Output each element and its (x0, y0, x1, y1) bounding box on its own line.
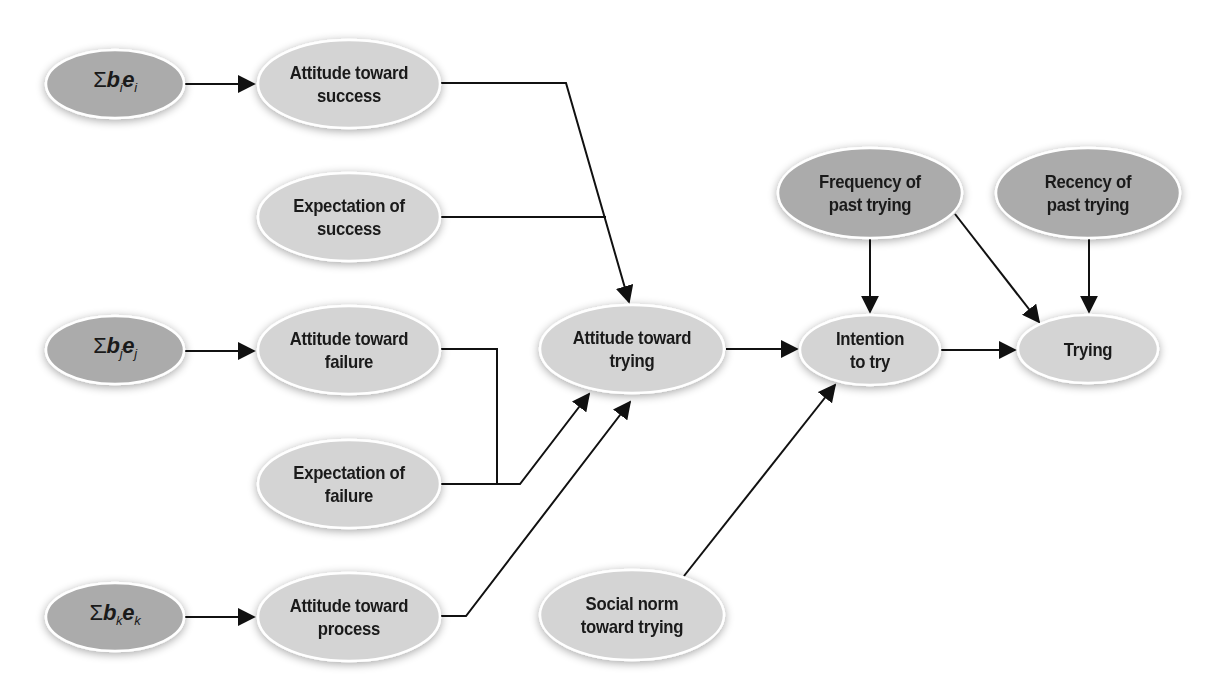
subscript: j (134, 347, 137, 362)
label-line: trying (610, 349, 655, 372)
label-att-failure: Attitude toward failure (269, 326, 429, 374)
label-line: Frequency of (819, 170, 921, 193)
label-att-trying: Attitude toward trying (551, 325, 713, 373)
sigma-symbol: Σ (90, 600, 103, 625)
label-line: failure (325, 484, 373, 507)
sigma-symbol: Σ (93, 333, 106, 358)
var-b: b (103, 600, 116, 625)
label-line: past trying (829, 193, 912, 216)
edge-att-failure-to-att-trying (441, 349, 497, 484)
label-line: Intention (836, 327, 904, 350)
label-exp-success: Expectation of success (269, 193, 429, 241)
label-line: Attitude toward (290, 594, 409, 617)
var-b: b (107, 333, 120, 358)
edge-att-success-to-att-trying (441, 83, 629, 302)
edge-frequency-to-trying (955, 214, 1039, 322)
label-line: Social norm (586, 592, 679, 615)
edge-exp-failure-to-att-trying (441, 394, 589, 484)
label-att-success: Attitude toward success (269, 60, 429, 108)
label-trying: Trying (1026, 337, 1149, 361)
label-line: failure (325, 350, 373, 373)
label-social-norm: Social norm toward trying (551, 591, 713, 639)
label-line: Expectation of (293, 194, 405, 217)
label-line: Attitude toward (573, 326, 692, 349)
label-line: Attitude toward (290, 61, 409, 84)
label-line: Attitude toward (290, 327, 409, 350)
var-e: e (122, 333, 134, 358)
label-line: success (317, 84, 381, 107)
label-recency: Recency of past trying (1007, 169, 1169, 217)
label-line: past trying (1047, 193, 1130, 216)
var-e: e (122, 600, 134, 625)
label-intention: Intention to try (808, 326, 931, 374)
subscript: i (134, 81, 137, 96)
label-line: toward trying (581, 615, 683, 638)
label-sum-i: Σbiei (46, 66, 184, 102)
label-sum-j: Σbjej (46, 332, 184, 368)
label-line: success (317, 217, 381, 240)
label-line: process (318, 617, 380, 640)
sigma-symbol: Σ (93, 67, 106, 92)
label-line: to try (850, 350, 890, 373)
var-b: b (107, 67, 120, 92)
var-e: e (122, 67, 134, 92)
label-att-process: Attitude toward process (269, 593, 429, 641)
label-exp-failure: Expectation of failure (269, 460, 429, 508)
label-line: Expectation of (293, 461, 405, 484)
label-sum-k: Σbkek (46, 599, 184, 635)
label-line: Trying (1064, 338, 1113, 361)
label-line: Recency of (1045, 170, 1132, 193)
label-frequency: Frequency of past trying (789, 169, 951, 217)
edge-social-norm-to-intention (684, 385, 835, 576)
subscript: k (134, 614, 140, 629)
